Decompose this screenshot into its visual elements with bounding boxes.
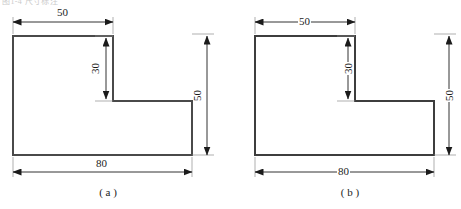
- dimension-lines-b: [255, 22, 449, 172]
- dim-value-a-notch-depth: 30: [90, 63, 101, 74]
- dim-value-a-overall-width: 80: [96, 158, 107, 169]
- figure-a-canvas: 50 30 50 80 ( a ): [0, 0, 231, 209]
- part-outline-a: [13, 36, 192, 155]
- drawing-page: 图1-4 尺寸标注: [0, 0, 461, 209]
- figure-b-geometry: [230, 0, 461, 209]
- dimension-lines-a: [13, 22, 207, 172]
- figure-a-caption: ( a ): [78, 186, 138, 198]
- dim-value-a-overall-height: 50: [192, 90, 203, 101]
- dim-value-b-overall-height: 50: [444, 89, 455, 102]
- figure-a: 50 30 50 80 ( a ): [0, 0, 231, 209]
- figure-a-geometry: [0, 0, 231, 209]
- part-outline-path-a: [13, 36, 192, 155]
- figure-b-caption: ( b ): [320, 186, 380, 198]
- part-outline-path-b: [255, 36, 434, 155]
- part-outline-b: [255, 36, 434, 155]
- figure-b: 50 30 50 80 ( b ): [230, 0, 461, 209]
- dim-value-b-notch-depth: 30: [343, 62, 354, 75]
- figure-b-canvas: 50 30 50 80 ( b ): [230, 0, 461, 209]
- dim-value-b-top-width: 50: [298, 16, 311, 27]
- dim-value-b-overall-width: 80: [337, 166, 350, 177]
- dim-value-a-top-width: 50: [57, 7, 68, 18]
